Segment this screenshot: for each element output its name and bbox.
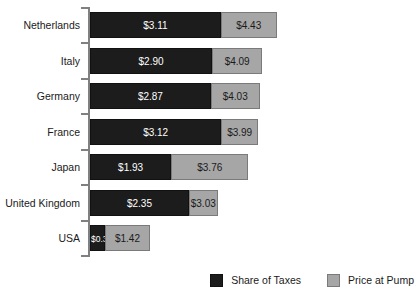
category-label: Japan: [0, 154, 80, 180]
bar-segment-price-at-pump: $4.09: [212, 48, 262, 74]
category-label: Germany: [0, 83, 80, 109]
axis-tick: [81, 42, 90, 44]
plot-area: Netherlands$3.11$4.43Italy$2.90$4.09Germ…: [0, 0, 420, 262]
category-label: Italy: [0, 48, 80, 74]
axis-tick: [81, 7, 90, 9]
stacked-bar: $2.90$4.09: [90, 48, 262, 74]
legend-item-label: Share of Taxes: [231, 274, 301, 286]
stacked-bar: $2.35$3.03: [90, 190, 218, 216]
bar-value-label: $0.36: [91, 226, 104, 252]
bar-value-label: $3.76: [172, 155, 247, 181]
bar-segment-price-at-pump: $3.03: [189, 190, 218, 216]
bar-segment-share-of-taxes: $0.36: [90, 225, 105, 251]
bar-row: Japan$1.93$3.76: [0, 154, 420, 180]
category-label: Netherlands: [0, 12, 80, 38]
stacked-bar: $3.11$4.43: [90, 12, 277, 38]
bar-segment-share-of-taxes: $3.12: [90, 119, 221, 145]
stacked-bar: $3.12$3.99: [90, 119, 258, 145]
bar-segment-price-at-pump: $3.76: [171, 154, 248, 180]
bar-row: Italy$2.90$4.09: [0, 48, 420, 74]
bar-row: France$3.12$3.99: [0, 119, 420, 145]
bar-value-label: $2.90: [91, 49, 211, 75]
legend-item-share-of-taxes: Share of Taxes: [210, 274, 301, 287]
bar-value-label: $3.11: [91, 13, 220, 39]
bar-segment-price-at-pump: $1.42: [105, 225, 150, 251]
gray-square-icon: [327, 274, 340, 287]
axis-tick: [81, 78, 90, 80]
bar-value-label: $4.03: [212, 84, 259, 110]
axis-tick: [81, 113, 90, 115]
axis-tick: [81, 184, 90, 186]
bar-value-label: $4.43: [222, 13, 276, 39]
bar-row: Netherlands$3.11$4.43: [0, 12, 420, 38]
category-label: United Kingdom: [0, 190, 80, 216]
bar-value-label: $3.12: [91, 120, 220, 146]
legend-item-label: Price at Pump: [348, 274, 414, 286]
bar-value-label: $2.87: [91, 84, 210, 110]
bar-segment-share-of-taxes: $3.11: [90, 12, 221, 38]
category-label: USA: [0, 225, 80, 251]
bar-row: Germany$2.87$4.03: [0, 83, 420, 109]
axis-tick: [81, 255, 90, 257]
bar-segment-share-of-taxes: $1.93: [90, 154, 171, 180]
legend-item-price-at-pump: Price at Pump: [327, 274, 414, 287]
bar-value-label: $1.93: [91, 155, 170, 181]
bar-segment-price-at-pump: $4.43: [221, 12, 277, 38]
chart-legend: Share of Taxes Price at Pump: [0, 266, 420, 294]
stacked-bar: $1.93$3.76: [90, 154, 248, 180]
bar-row: United Kingdom$2.35$3.03: [0, 190, 420, 216]
axis-tick: [81, 149, 90, 151]
bar-value-label: $4.09: [213, 49, 261, 75]
bar-value-label: $1.42: [106, 226, 149, 252]
bar-segment-share-of-taxes: $2.90: [90, 48, 212, 74]
category-label: France: [0, 119, 80, 145]
stacked-bar-chart: Netherlands$3.11$4.43Italy$2.90$4.09Germ…: [0, 0, 420, 294]
black-square-icon: [210, 274, 223, 287]
bar-row: USA$0.36$1.42: [0, 225, 420, 251]
stacked-bar: $0.36$1.42: [90, 225, 150, 251]
bar-segment-price-at-pump: $3.99: [221, 119, 258, 145]
stacked-bar: $2.87$4.03: [90, 83, 260, 109]
bar-value-label: $3.03: [190, 191, 217, 217]
bar-segment-share-of-taxes: $2.87: [90, 83, 211, 109]
bar-value-label: $2.35: [91, 191, 188, 217]
bar-segment-share-of-taxes: $2.35: [90, 190, 189, 216]
bar-value-label: $3.99: [222, 120, 257, 146]
bar-segment-price-at-pump: $4.03: [211, 83, 260, 109]
axis-tick: [81, 220, 90, 222]
